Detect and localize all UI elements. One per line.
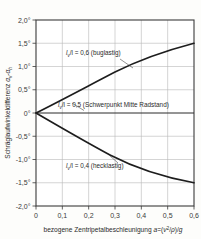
x-tick-label: 0 xyxy=(34,212,38,219)
chart-figure: 2,0° 1,5° 1,0° 0,5° 0° -0,5° -1,0° -1,5°… xyxy=(0,0,201,239)
y-tick-label: -1,0° xyxy=(16,156,31,163)
annotation-buglastig-rest: /l = 0,6 (buglastig) xyxy=(70,49,121,57)
x-axis-title-g: g xyxy=(179,226,183,234)
y-axis-title-sub-h: h xyxy=(8,67,13,70)
annotation-neutral-rest: /l = 0,5 (Schwerpunkt Mitte Radstand) xyxy=(62,101,169,109)
x-tick-label: 0,2 xyxy=(84,212,94,219)
y-tick-label: -0,5° xyxy=(16,133,31,140)
x-tick-label: 0,1 xyxy=(57,212,67,219)
slip-angle-difference-chart: 2,0° 1,5° 1,0° 0,5° 0° -0,5° -1,0° -1,5°… xyxy=(0,0,201,239)
x-tick-label: 0,6 xyxy=(189,212,199,219)
x-tick-label: 0,4 xyxy=(136,212,146,219)
y-axis-title-main: Schräglaufwinkeldifferenz xyxy=(4,84,12,159)
y-axis-title: Schräglaufwinkeldifferenz αv-αh xyxy=(4,67,13,159)
x-tick-label: 0,3 xyxy=(110,212,120,219)
y-tick-label: -1,5° xyxy=(16,179,31,186)
x-tick-labels: 0 0,1 0,2 0,3 0,4 0,5 0,6 xyxy=(34,212,199,219)
y-tick-label: 1,0° xyxy=(18,63,31,70)
y-tick-label: 0° xyxy=(24,110,31,117)
y-tick-labels: 2,0° 1,5° 1,0° 0,5° 0° -0,5° -1,0° -1,5°… xyxy=(16,17,31,210)
y-tick-label: 1,5° xyxy=(18,40,31,47)
annotation-hecklastig-rest: /l = 0,4 (hecklastig) xyxy=(70,162,124,170)
x-axis-title: bezogene Zentripetalbeschleunigung a=(v2… xyxy=(43,226,182,234)
x-axis-title-main: bezogene Zentripetalbeschleunigung xyxy=(43,226,151,234)
x-tick-label: 0,5 xyxy=(163,212,173,219)
y-tick-label: 0,5° xyxy=(18,86,31,93)
y-tick-label: 2,0° xyxy=(18,17,31,24)
y-tick-label: -2,0° xyxy=(16,203,31,210)
